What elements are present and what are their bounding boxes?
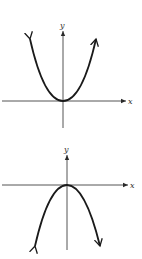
x-axis-label: x xyxy=(130,181,135,190)
graph-upward-parabola: x y xyxy=(2,21,133,128)
graph-downward-parabola: x y xyxy=(2,145,135,250)
x-axis-label: x xyxy=(128,97,133,106)
y-axis-label: y xyxy=(59,21,65,30)
parabola-down-curve xyxy=(35,185,100,246)
y-axis-label: y xyxy=(63,145,69,154)
diagram-canvas: x y x y xyxy=(0,0,142,259)
